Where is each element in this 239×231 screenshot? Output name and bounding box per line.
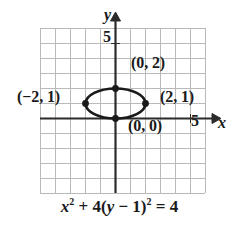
point-label-2-1: (2, 1)	[160, 89, 194, 105]
equation-x-var: x	[61, 197, 70, 216]
equation-minus-one: − 1)	[114, 197, 146, 216]
equation-caption: x2 + 4(y − 1)2 = 4	[0, 198, 239, 215]
x-axis-tick-label-5: 5	[191, 113, 199, 129]
point-neg2-1	[82, 100, 89, 107]
ellipse-graph-figure: (0, 2) (−2, 1) (2, 1) (0, 0) 5 5 y x x2 …	[0, 0, 239, 231]
equation-rhs: 4	[170, 197, 179, 216]
point-label-0-2: (0, 2)	[131, 55, 165, 71]
point-0-0	[112, 115, 119, 122]
point-label-neg2-1: (−2, 1)	[17, 89, 60, 105]
equation-coefficient: 4(	[92, 197, 106, 216]
x-axis-label: x	[218, 115, 226, 131]
point-0-2	[112, 85, 119, 92]
point-2-1	[142, 100, 149, 107]
y-axis-label: y	[104, 7, 111, 23]
y-axis-tick-label-5: 5	[103, 29, 111, 45]
y-axis-arrow	[111, 12, 121, 21]
grid-lines	[40, 28, 206, 194]
equation-equals: =	[152, 197, 170, 216]
equation-plus: +	[74, 197, 92, 216]
point-label-0-0: (0, 0)	[128, 118, 162, 134]
